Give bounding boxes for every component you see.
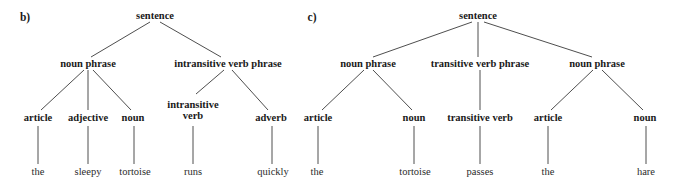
tree-node-pos: adverb <box>255 112 287 123</box>
tree-node-phrase: noun phrase <box>340 58 396 69</box>
tree-edges-canvas <box>0 0 678 187</box>
tree-node-pos: article <box>304 112 333 123</box>
tree-edge <box>160 22 221 57</box>
tree-node-leaf: passes <box>467 166 494 177</box>
tree-node-phrase: noun phrase <box>569 58 625 69</box>
tree-node-pos: transitive verb <box>447 112 513 123</box>
tree-node-leaf: quickly <box>257 166 289 177</box>
tree-node-leaf: tortoise <box>119 166 151 177</box>
tree-edge <box>41 70 84 110</box>
tree-edge <box>196 70 224 94</box>
tree-node-pos: adjective <box>68 112 108 123</box>
tree-node-leaf: sleepy <box>75 166 102 177</box>
tree-node-leaf: the <box>311 166 324 177</box>
tree-node-pos: noun <box>403 112 426 123</box>
tree-edge <box>322 70 364 110</box>
tree-node-phrase: intransitive verb phrase <box>174 58 281 69</box>
tree-edge <box>232 70 268 110</box>
parse-tree-figure: b)sentencenoun phraseintransitive verb p… <box>0 0 678 187</box>
tree-edge <box>91 22 150 57</box>
tree-node-pos: article <box>24 112 53 123</box>
tree-node-phrase: noun phrase <box>60 58 116 69</box>
tree-node-pos: article <box>534 112 563 123</box>
tree-node-root: sentence <box>459 10 497 21</box>
tree-edge <box>551 70 593 110</box>
tree-node-root: sentence <box>136 10 174 21</box>
tree-node-leaf: the <box>32 166 45 177</box>
panel-label: b) <box>20 11 30 23</box>
tree-edge <box>373 70 412 110</box>
tree-node-leaf: runs <box>184 166 202 177</box>
tree-node-leaf: tortoise <box>399 166 431 177</box>
tree-edge <box>484 22 592 57</box>
tree-node-pos: noun <box>634 112 657 123</box>
tree-node-phrase: transitive verb phrase <box>431 58 530 69</box>
tree-edge <box>373 22 472 57</box>
tree-node-leaf: the <box>542 166 555 177</box>
tree-node-leaf: hare <box>637 166 655 177</box>
tree-node-pos: noun <box>122 112 145 123</box>
panel-label: c) <box>308 11 317 23</box>
tree-node-pos: intransitiveverb <box>167 99 218 121</box>
tree-edge <box>602 70 643 110</box>
tree-edge <box>93 70 131 110</box>
